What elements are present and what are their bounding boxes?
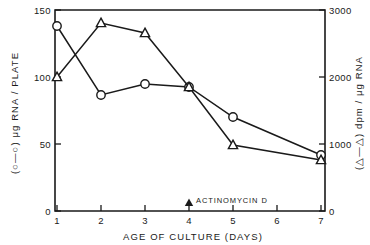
data-point-triangle [96, 18, 105, 26]
left-tick-label-50: 50 [40, 139, 51, 150]
x-tick-label-5: 5 [230, 215, 236, 226]
right-tick-label-1000: 1000 [329, 139, 352, 150]
right-axis-title-group: (△—△) dpm / μg RNA [353, 56, 364, 170]
data-point-circle [53, 22, 61, 30]
right-tick-label-0: 0 [329, 206, 335, 217]
actinomycin-marker-icon [185, 199, 193, 207]
series-dpm-per-ug-rna [52, 18, 325, 163]
left-tick-label-150: 150 [34, 5, 51, 16]
actinomycin-annotation: ACTINOMYCIN D [185, 196, 268, 206]
left-axis-title-group: (○—○) μg RNA / PLATE [9, 52, 20, 174]
left-tick-label-100: 100 [34, 72, 51, 83]
plot-frame [55, 10, 325, 211]
actinomycin-label: ACTINOMYCIN D [196, 196, 268, 205]
right-tick-label-2000: 2000 [329, 72, 352, 83]
left-axis-title: (○—○) μg RNA / PLATE [9, 52, 20, 174]
x-axis-title: AGE OF CULTURE (DAYS) [123, 231, 263, 242]
x-tick-label-7: 7 [318, 215, 324, 226]
x-tick-label-6: 6 [274, 215, 280, 226]
x-axis-tick-labels: 1 2 3 4 5 6 7 [54, 215, 324, 226]
data-point-circle [141, 80, 149, 88]
right-axis-ticks [319, 10, 325, 211]
left-axis-tick-labels: 150 100 50 0 [34, 5, 51, 217]
data-point-circle [229, 113, 237, 121]
data-point-circle [97, 91, 105, 99]
rna-culture-chart: 150 100 50 0 3000 2000 1000 0 1 2 3 4 5 … [0, 0, 370, 245]
left-tick-label-0: 0 [45, 206, 51, 217]
right-tick-label-3000: 3000 [329, 5, 352, 16]
x-tick-label-4: 4 [186, 215, 192, 226]
right-axis-title: (△—△) dpm / μg RNA [353, 56, 364, 170]
x-axis-title-group: AGE OF CULTURE (DAYS) [123, 231, 263, 242]
x-tick-label-1: 1 [54, 215, 60, 226]
left-axis-ticks [55, 10, 61, 211]
x-tick-label-2: 2 [98, 215, 104, 226]
x-tick-label-3: 3 [142, 215, 148, 226]
right-axis-tick-labels: 3000 2000 1000 0 [329, 5, 352, 217]
